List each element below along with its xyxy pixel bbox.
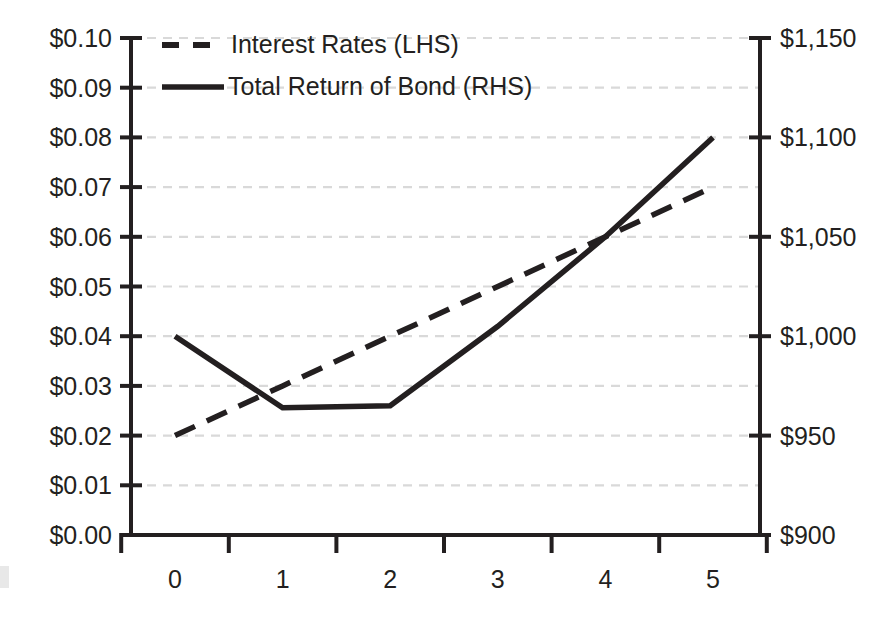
left-axis-tick-label: $0.10 [49, 24, 112, 52]
chart-container: $0.10$0.09$0.08$0.07$0.06$0.05$0.04$0.03… [0, 0, 891, 622]
chart-legend: Interest Rates (LHS) Total Return of Bon… [162, 30, 532, 100]
scan-artifact [0, 566, 9, 588]
series-interest-rates-line [175, 187, 713, 436]
left-axis-tick-label: $0.00 [49, 521, 112, 549]
legend-label-total-return: Total Return of Bond (RHS) [228, 72, 532, 100]
legend-item-total-return: Total Return of Bond (RHS) [162, 72, 532, 100]
x-axis-tick-label: 2 [383, 565, 397, 593]
right-axis-tick-label: $1,150 [780, 24, 856, 52]
left-axis-tick-label: $0.01 [49, 471, 112, 499]
legend-label-interest-rates: Interest Rates (LHS) [231, 30, 459, 58]
x-axis-tick-label: 0 [168, 565, 182, 593]
right-axis-tick-label: $1,000 [780, 322, 856, 350]
x-axis-tick-label: 5 [706, 565, 720, 593]
dual-axis-line-chart: $0.10$0.09$0.08$0.07$0.06$0.05$0.04$0.03… [0, 0, 891, 622]
gridlines-group [131, 38, 760, 485]
right-axis-tick-label: $1,050 [780, 223, 856, 251]
right-axis-tick-label: $1,100 [780, 123, 856, 151]
left-axis-tick-label: $0.07 [49, 173, 112, 201]
series-total-return-line [175, 137, 713, 407]
x-axis-tick-labels: 012345 [168, 565, 720, 593]
x-axis-tick-label: 4 [598, 565, 612, 593]
left-axis-tick-label: $0.06 [49, 223, 112, 251]
left-axis-tick-label: $0.09 [49, 74, 112, 102]
left-axis-tick-label: $0.04 [49, 322, 112, 350]
left-axis-tick-label: $0.02 [49, 422, 112, 450]
left-axis-tick-label: $0.05 [49, 273, 112, 301]
left-axis-tick-label: $0.03 [49, 372, 112, 400]
right-axis-tick-labels: $1,150$1,100$1,050$1,000$950$900 [780, 24, 856, 549]
right-axis-tick-label: $950 [780, 422, 836, 450]
right-axis-tick-label: $900 [780, 521, 836, 549]
left-axis-tick-label: $0.08 [49, 123, 112, 151]
left-axis-tick-labels: $0.10$0.09$0.08$0.07$0.06$0.05$0.04$0.03… [49, 24, 112, 549]
x-axis-tick-label: 3 [491, 565, 505, 593]
legend-item-interest-rates: Interest Rates (LHS) [162, 30, 459, 58]
x-axis-tick-label: 1 [276, 565, 290, 593]
